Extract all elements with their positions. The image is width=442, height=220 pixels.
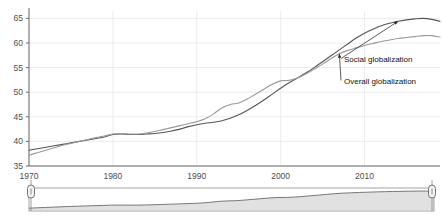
y-tick-label: 45 (14, 112, 24, 122)
annotation-label-social-globalization: Social globalization (344, 55, 413, 64)
series-line-overall-globalization (29, 35, 440, 155)
x-axis-ticks: 19701980199020002010 (20, 171, 375, 181)
y-tick-label: 40 (14, 136, 24, 146)
x-tick-label: 1980 (103, 171, 122, 181)
range-navigator[interactable] (28, 180, 436, 211)
y-axis-ticks: 35404550556065 (14, 13, 29, 171)
x-tick-label: 1970 (20, 171, 39, 181)
series-group (29, 18, 440, 155)
x-tick-label: 1990 (187, 171, 206, 181)
y-tick-label: 50 (14, 87, 24, 97)
axes (29, 8, 440, 166)
chart-container: 3540455055606519701980199020002010Social… (0, 0, 442, 220)
y-tick-label: 60 (14, 38, 24, 48)
y-tick-label: 65 (14, 13, 24, 23)
x-tick-label: 2000 (271, 171, 290, 181)
x-tick-label: 2010 (355, 171, 374, 181)
y-tick-label: 55 (14, 63, 24, 73)
annotations: Social globalizationOverall globalizatio… (338, 21, 416, 86)
y-tick-label: 35 (14, 161, 24, 171)
globalization-line-chart: 3540455055606519701980199020002010Social… (0, 0, 442, 220)
annotation-label-overall-globalization: Overall globalization (344, 77, 416, 86)
